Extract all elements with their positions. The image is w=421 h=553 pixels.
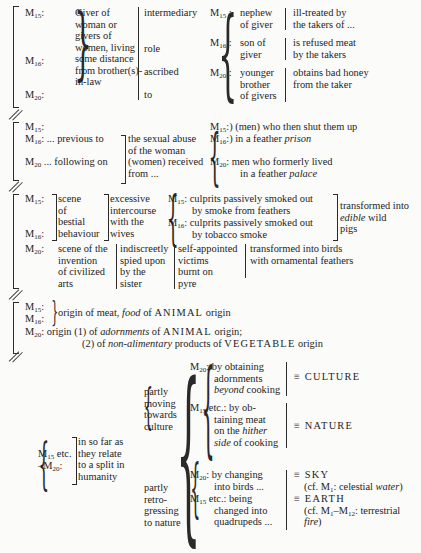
divider <box>245 244 246 278</box>
row-m20-label: M20 : <box>210 67 232 79</box>
divider <box>174 244 175 289</box>
transformed-pigs: transformed into edible wild pigs <box>340 200 409 235</box>
right-m15: M15:) (men) who then shut them up <box>210 121 357 133</box>
section-separator <box>9 109 20 120</box>
origin-adornments: M20: origin (1) of adornments of ANIMAL … <box>25 326 242 338</box>
branch-nature: partlyretro- gressingto nature <box>144 482 181 529</box>
row-m20-fate: obtains bad honeyfrom the taker <box>293 67 369 90</box>
excessive-intercourse: excessiveintercourse with thewives <box>110 193 156 240</box>
label-m16-previous: M16: ... previous to <box>25 133 104 145</box>
equiv-culture: ≡ CULTURE <box>294 371 360 383</box>
role-word-4: to <box>144 89 152 101</box>
row-m20-who: youngerbrotherof givers <box>240 67 277 102</box>
divider <box>285 8 286 30</box>
section-separator <box>9 181 20 192</box>
role-word-2: role <box>144 43 160 55</box>
right-m20: M20: men who formerly lived <box>210 156 332 168</box>
culprits-m16: M16: culprits passively smoked out <box>168 217 313 229</box>
scene-bestial: sceneof bestialbehaviour <box>58 193 100 240</box>
label-m20: M20: <box>25 89 44 101</box>
bracket <box>104 194 109 241</box>
abuse-description: the sexual abuse of the woman (women) re… <box>128 133 203 179</box>
label-m20: M20: <box>25 243 44 255</box>
bracket <box>52 194 57 241</box>
label-m16: M16: <box>25 228 44 240</box>
m20-obtaining: M20: by obtaining adornments beyond cook… <box>190 361 280 396</box>
row-m15-who: nephewof giver <box>240 7 273 30</box>
giver-description: Giver of woman or givers of women, livin… <box>75 7 142 88</box>
divider <box>285 68 286 102</box>
culprits-m15-cont: by smoke from feathers <box>192 205 290 217</box>
culprits-m16-cont: by tobacco smoke <box>192 229 267 241</box>
row-m15-label: M15 : <box>210 7 232 19</box>
left-bracket <box>13 302 19 354</box>
divider <box>285 38 286 60</box>
row-m16-fate: is refused meatby the takers <box>293 37 356 60</box>
m20-victims: self-appointedvictims burnt onpyre <box>178 243 237 290</box>
bracket <box>333 194 338 241</box>
label-m15: M15: <box>25 121 44 133</box>
branch-culture: partlymoving towardsculture <box>144 386 177 433</box>
divider <box>286 470 287 530</box>
label-m15-m20: M15 etc.–M20: <box>38 448 72 472</box>
row-m16-who: son ofgiver <box>240 37 266 60</box>
equiv-sky: ≡ SKY (cf. M1: celestial water) <box>294 469 403 492</box>
equiv-nature: ≡ NATURE <box>294 420 353 432</box>
left-bracket <box>13 122 19 181</box>
label-m16: M16: <box>25 313 44 325</box>
m20-changing: M20: by changing into birds ... <box>190 469 264 492</box>
origin-meat: origin of meat, food of ANIMAL origin <box>58 307 231 319</box>
label-m16: M16: <box>25 55 44 67</box>
m15-obtaining: M15 etc.: by ob- taining meat on the hit… <box>190 402 278 449</box>
bracket <box>121 135 126 184</box>
right-m20-cont: in a feather palace <box>240 168 317 180</box>
m20-birds: transformed into birdswith ornamental fe… <box>250 243 353 266</box>
divider <box>286 403 287 448</box>
m15-being: M15 etc.: being changed into quadrupeds … <box>190 493 272 528</box>
split-humanity: in so far asthey relate to a split inhum… <box>78 436 124 483</box>
equiv-earth: ≡ EARTH (cf. M1–M12: terrestrial fire) <box>294 493 400 528</box>
row-m16-label: M16 : <box>210 37 232 49</box>
culprits-m15: M15: culprits passively smoked out <box>168 193 313 205</box>
divider <box>138 7 139 100</box>
bracket <box>72 437 77 485</box>
divider <box>116 244 117 289</box>
divider <box>286 362 287 396</box>
label-m20-following: M20 ... following on <box>25 156 108 168</box>
role-word-3: ascribed <box>144 66 179 78</box>
role-word-1: intermediary <box>144 7 197 19</box>
row-m15-fate: ill-treated bythe takers of ... <box>293 7 355 30</box>
label-m15: M15: <box>25 193 44 205</box>
label-m15: M15: <box>25 7 44 19</box>
right-m16: M16:) in a feather prison <box>210 133 311 145</box>
left-bracket <box>13 6 19 108</box>
m20-scene: scene of theinvention of civilizedarts <box>58 243 108 290</box>
m20-spied: indiscreetlyspied upon by thesister <box>120 243 168 290</box>
label-m15: M15: <box>25 301 44 313</box>
left-bracket <box>13 194 19 289</box>
section-separator <box>9 289 20 300</box>
